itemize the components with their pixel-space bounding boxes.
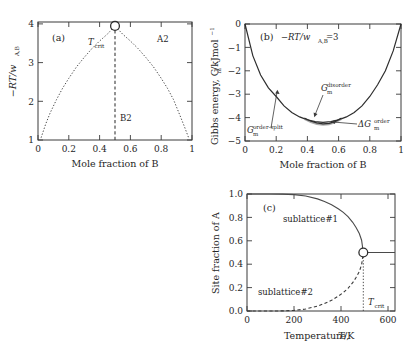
panel-a-x-axis-label: Mole fraction of B bbox=[71, 158, 158, 169]
panel-a-y-tick-labels: 1 2 3 4 bbox=[28, 19, 34, 145]
svg-text:0.2: 0.2 bbox=[269, 145, 283, 155]
panel-c-critical-point-marker bbox=[359, 248, 368, 257]
panel-c-x-axis-label: Temperature, T /K bbox=[284, 330, 355, 341]
svg-text:Site fraction of A: Site fraction of A bbox=[210, 212, 221, 294]
svg-text:3: 3 bbox=[28, 58, 34, 68]
svg-text:0.6: 0.6 bbox=[331, 145, 346, 155]
svg-text:4: 4 bbox=[28, 19, 34, 29]
svg-text:0.4: 0.4 bbox=[229, 259, 244, 269]
svg-text:m: m bbox=[253, 131, 259, 137]
svg-text:−RT/w: −RT/w bbox=[281, 32, 311, 42]
figure-canvas: (a) A2 B2 T crit 0 0.2 0.4 0.6 0.8 1 1 2 bbox=[0, 0, 415, 355]
svg-text:crit: crit bbox=[95, 43, 106, 49]
svg-text:−3: −3 bbox=[228, 89, 242, 99]
panel-c-y-tick-labels: 0.0 0.2 0.4 0.6 0.8 1.0 bbox=[229, 189, 244, 316]
svg-text:1.0: 1.0 bbox=[229, 189, 244, 199]
svg-text:−5: −5 bbox=[228, 136, 242, 146]
svg-text:/K: /K bbox=[344, 330, 355, 341]
panel-b-y-tick-labels: 0 −1 −2 −3 −4 −5 bbox=[228, 19, 242, 146]
svg-text:m: m bbox=[327, 89, 333, 95]
svg-text:0.4: 0.4 bbox=[300, 145, 315, 155]
svg-text:0.4: 0.4 bbox=[92, 144, 107, 154]
panel-c-label-sublattice1: sublattice#1 bbox=[283, 214, 338, 224]
svg-text:crit: crit bbox=[375, 303, 386, 309]
svg-text:Gibbs energy, G: Gibbs energy, G bbox=[209, 69, 220, 145]
panel-a-critical-point-marker bbox=[111, 22, 120, 31]
svg-text:m: m bbox=[374, 125, 380, 131]
panel-c-tcrit-label: T crit bbox=[368, 297, 385, 309]
svg-text:1: 1 bbox=[28, 135, 34, 145]
svg-text:1: 1 bbox=[189, 144, 195, 154]
svg-text:400: 400 bbox=[332, 315, 349, 325]
svg-text:0: 0 bbox=[242, 145, 248, 155]
panel-a-x-tick-labels: 0 0.2 0.4 0.6 0.8 1 bbox=[35, 144, 195, 154]
svg-text:0: 0 bbox=[235, 19, 241, 29]
panel-c-label-sublattice2: sublattice#2 bbox=[258, 287, 313, 297]
panel-b: (b) −RT/w A,B =3 G m disorder G m order-… bbox=[205, 0, 415, 180]
svg-text:0.2: 0.2 bbox=[62, 144, 76, 154]
svg-text:ΔG: ΔG bbox=[357, 119, 371, 129]
svg-text:order: order bbox=[374, 118, 390, 124]
svg-text:0.8: 0.8 bbox=[363, 145, 378, 155]
panel-b-order-split-curve bbox=[304, 118, 341, 124]
panel-c-x-tick-labels: 0 200 400 600 bbox=[244, 315, 397, 325]
panel-b-anno-ordersplit: G m order-split bbox=[247, 124, 284, 137]
panel-b-y-axis-label: Gibbs energy, G m /kJmol −1 bbox=[209, 27, 222, 145]
svg-text:/kJmol: /kJmol bbox=[209, 39, 220, 70]
panel-a: (a) A2 B2 T crit 0 0.2 0.4 0.6 0.8 1 1 2 bbox=[0, 0, 205, 180]
svg-text:order-split: order-split bbox=[253, 124, 284, 131]
panel-a-label: (a) bbox=[52, 32, 65, 43]
panel-c: (c) sublattice#1 sublattice#2 T crit 0 2… bbox=[195, 178, 415, 355]
svg-text:−1: −1 bbox=[209, 27, 215, 35]
svg-text:=3: =3 bbox=[326, 32, 339, 42]
panel-b-anno-disorder: G m disorder bbox=[321, 82, 351, 95]
panel-b-x-axis-label: Mole fraction of B bbox=[279, 159, 366, 170]
panel-c-sublattice2-curve bbox=[247, 253, 363, 312]
panel-b-label: (b) bbox=[260, 31, 274, 42]
panel-c-label: (c) bbox=[263, 202, 276, 213]
svg-text:0.6: 0.6 bbox=[123, 144, 138, 154]
svg-text:A,B: A,B bbox=[14, 46, 20, 57]
panel-a-region-a2: A2 bbox=[156, 34, 169, 44]
panel-c-y-axis-label: Site fraction of A bbox=[210, 212, 221, 294]
panel-b-header: −RT/w A,B =3 bbox=[281, 32, 339, 44]
svg-text:0.6: 0.6 bbox=[229, 236, 244, 246]
panel-b-anno-deltaorder: ΔG m order bbox=[357, 118, 390, 131]
svg-text:0: 0 bbox=[244, 315, 250, 325]
panel-b-x-tick-labels: 0 0.2 0.4 0.6 0.8 1 bbox=[242, 145, 404, 155]
svg-text:−1: −1 bbox=[228, 43, 241, 53]
panel-a-y-axis-label: −RT/w A,B bbox=[7, 46, 20, 97]
svg-text:1: 1 bbox=[398, 145, 404, 155]
svg-text:200: 200 bbox=[285, 315, 302, 325]
svg-text:0.2: 0.2 bbox=[229, 283, 243, 293]
panel-a-region-b2: B2 bbox=[120, 113, 132, 123]
svg-text:−4: −4 bbox=[228, 113, 242, 123]
svg-text:600: 600 bbox=[379, 315, 396, 325]
svg-text:−2: −2 bbox=[228, 66, 241, 76]
svg-text:0: 0 bbox=[35, 144, 41, 154]
svg-text:−RT/w: −RT/w bbox=[7, 65, 18, 98]
svg-text:disorder: disorder bbox=[327, 82, 351, 88]
svg-text:0.0: 0.0 bbox=[229, 306, 244, 316]
svg-text:0.8: 0.8 bbox=[229, 213, 244, 223]
svg-text:2: 2 bbox=[28, 97, 34, 107]
svg-text:0.8: 0.8 bbox=[154, 144, 169, 154]
